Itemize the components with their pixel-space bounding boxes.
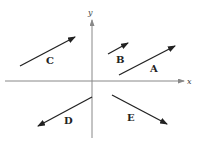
vector-label-d: D xyxy=(64,115,73,126)
vector-label-a: A xyxy=(149,63,158,74)
vector-label-e: E xyxy=(127,112,135,123)
x-axis-label: x xyxy=(187,77,192,86)
vector-label-b: B xyxy=(116,54,124,65)
vector-e xyxy=(112,95,167,124)
y-axis-label: y xyxy=(87,8,93,17)
vector-label-c: C xyxy=(46,55,54,66)
vector-diagram: x y ABCDE xyxy=(0,0,203,145)
vector-b xyxy=(108,43,128,54)
vector-a xyxy=(119,46,175,75)
